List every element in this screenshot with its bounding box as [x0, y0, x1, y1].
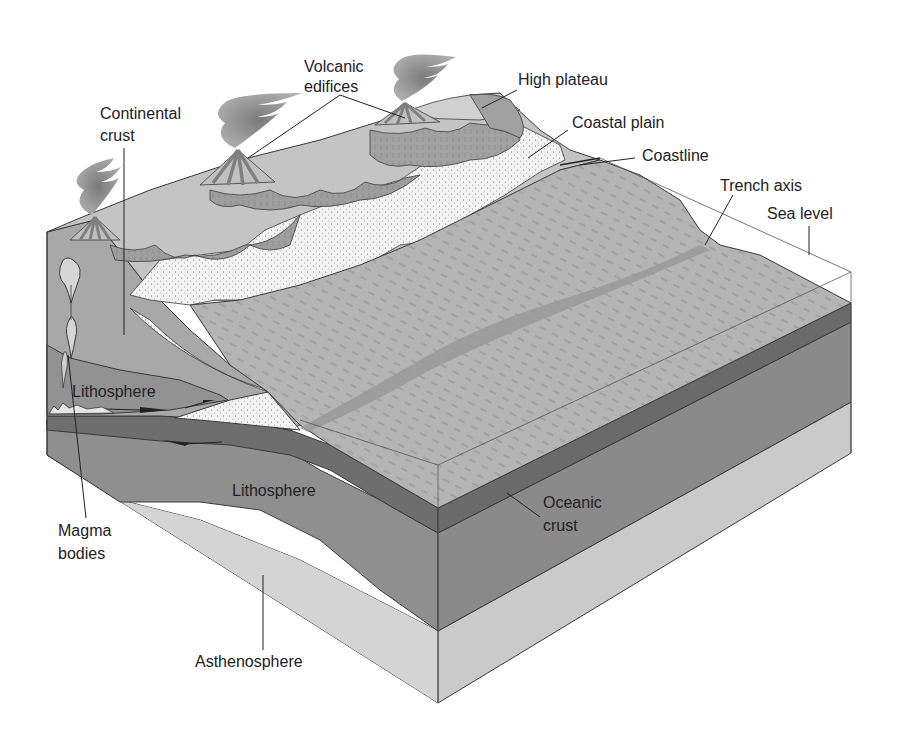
- label-oceanic-crust: Oceanic crust: [543, 491, 602, 537]
- ash-plume: [393, 54, 456, 101]
- label-line: crust: [543, 514, 602, 537]
- label-line: Magma: [58, 519, 111, 542]
- label-lithosphere-lower: Lithosphere: [232, 481, 316, 500]
- label-asthenosphere: Asthenosphere: [195, 652, 303, 671]
- label-volcanic-edifices: Volcanic edifices: [304, 57, 364, 97]
- label-line: edifices: [304, 77, 364, 97]
- label-trench-axis: Trench axis: [720, 176, 802, 195]
- label-coastline: Coastline: [642, 146, 709, 165]
- label-continental-crust: Continental crust: [100, 103, 181, 147]
- label-sea-level: Sea level: [767, 204, 833, 223]
- label-line: Continental: [100, 103, 181, 125]
- label-line: crust: [100, 125, 181, 147]
- ash-plume: [218, 93, 302, 148]
- label-line: bodies: [58, 542, 111, 565]
- label-lithosphere-upper: Lithosphere: [72, 382, 156, 401]
- label-line: Oceanic: [543, 491, 602, 514]
- label-line: Volcanic: [304, 57, 364, 77]
- leader-trench-axis: [705, 195, 733, 245]
- label-coastal-plain: Coastal plain: [572, 113, 665, 132]
- label-high-plateau: High plateau: [518, 70, 608, 89]
- label-magma-bodies: Magma bodies: [58, 519, 111, 565]
